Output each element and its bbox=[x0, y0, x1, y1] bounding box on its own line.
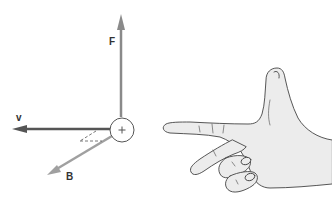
velocity-label: v bbox=[16, 113, 22, 123]
magnetic-field-label: B bbox=[66, 172, 73, 182]
right-hand-illustration bbox=[163, 68, 332, 192]
angle-marker bbox=[80, 131, 102, 141]
force-vector-arrow bbox=[117, 14, 125, 117]
force-label: F bbox=[109, 37, 115, 47]
positive-charge bbox=[110, 118, 134, 142]
right-hand-rule-diagram bbox=[0, 0, 332, 201]
magnetic-field-vector-arrow bbox=[47, 136, 112, 175]
